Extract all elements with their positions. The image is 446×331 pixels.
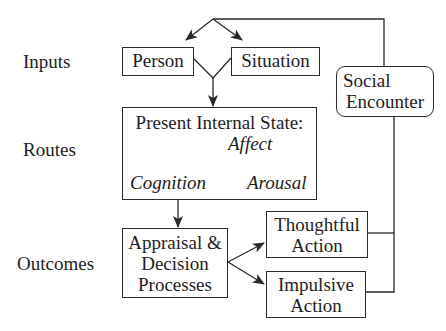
node-thoughtful-line1: Thoughtful [267, 214, 367, 235]
node-appraisal: Appraisal & Decision Processes [122, 228, 228, 298]
internal-state-affect: Affect [228, 133, 272, 154]
row-label-outcomes: Outcomes [17, 254, 94, 274]
node-social-encounter-line2: Encounter [337, 91, 433, 112]
node-internal-state: Present Internal State: Affect Cognition… [122, 107, 317, 200]
row-label-routes: Routes [23, 140, 76, 160]
node-social-encounter: Social Encounter [336, 66, 434, 117]
arrow-to-thoughtful [228, 243, 264, 262]
arrow-to-impulsive [228, 262, 264, 284]
node-impulsive-line1: Impulsive [267, 274, 365, 295]
merge-lines [193, 58, 231, 78]
node-person-label: Person [123, 48, 193, 74]
node-appraisal-line2: Decision [123, 253, 227, 274]
node-person: Person [122, 47, 194, 76]
node-impulsive-line2: Action [267, 295, 365, 316]
internal-state-arousal: Arousal [247, 172, 306, 193]
node-thoughtful-line2: Action [267, 235, 367, 256]
internal-state-title: Present Internal State: [123, 112, 316, 133]
node-situation: Situation [231, 47, 320, 76]
feedback-line-right-2 [365, 116, 394, 292]
arrow-to-person [186, 19, 213, 40]
internal-state-cognition: Cognition [130, 172, 206, 193]
node-social-encounter-line1: Social [337, 70, 433, 91]
node-thoughtful-action: Thoughtful Action [266, 211, 368, 258]
node-appraisal-line3: Processes [123, 274, 227, 295]
node-impulsive-action: Impulsive Action [266, 271, 366, 318]
diagram-canvas: Inputs Routes Outcomes Person Situation … [0, 0, 446, 331]
arrow-to-situation [213, 19, 242, 40]
node-situation-label: Situation [232, 48, 319, 74]
row-label-inputs: Inputs [23, 52, 71, 72]
node-appraisal-line1: Appraisal & [123, 232, 227, 253]
